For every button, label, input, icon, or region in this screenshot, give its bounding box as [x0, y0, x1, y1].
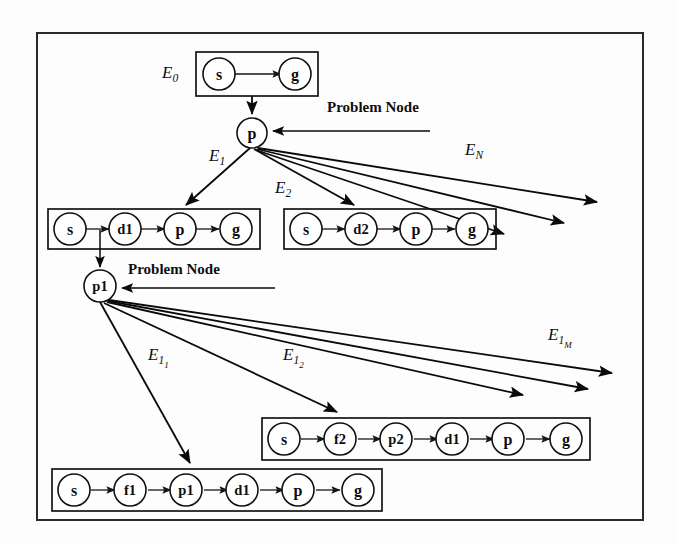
- figure-canvas: s g E0 p Problem Node E1 E2 EN: [0, 0, 678, 543]
- edge-p1-fan-3: [107, 302, 523, 395]
- edge-label-en: EN: [464, 140, 484, 161]
- plan-node-label: d1: [117, 221, 132, 237]
- plan-node-label: g: [354, 482, 362, 500]
- plan-node-label: g: [291, 66, 299, 84]
- plan-node-label: p: [412, 221, 421, 239]
- plan-node-label: d1: [444, 431, 459, 447]
- plan-node-label: s: [216, 66, 222, 83]
- annotation-problem-node-top: Problem Node: [327, 99, 419, 115]
- plan-node-label: p: [176, 221, 185, 239]
- plan-node-label: d2: [353, 221, 368, 237]
- plan-node-label: g: [232, 221, 240, 239]
- diagram-svg: s g E0 p Problem Node E1 E2 EN: [0, 0, 678, 543]
- plan-box-e0: s g: [196, 52, 318, 96]
- plan-node-label: s: [71, 482, 77, 499]
- edge-label-e1: E1: [208, 146, 225, 167]
- plan-node-label: p: [294, 482, 303, 500]
- plan-node-label: p1: [178, 482, 193, 498]
- edge-label-e12: E12: [282, 345, 304, 370]
- problem-node-label: p1: [92, 278, 107, 294]
- plan-box-e11: s f1 p1 d1 p g: [52, 469, 382, 511]
- plan-node-label: p2: [388, 431, 403, 447]
- plan-node-label: p: [504, 431, 513, 449]
- problem-node-label: p: [248, 125, 257, 143]
- plan-node-label: d1: [234, 482, 249, 498]
- plan-node-label: s: [281, 431, 287, 448]
- edge-p1-to-e11: [100, 302, 190, 463]
- plan-node-label: s: [67, 221, 73, 238]
- plan-box-e12: s f2 p2 d1 p g: [262, 418, 590, 460]
- edge-p1-fan-4: [108, 301, 588, 389]
- edge-p1-to-e12: [104, 303, 337, 412]
- plan-node-label: g: [562, 431, 570, 449]
- edge-p-fan-4: [257, 149, 564, 223]
- plan-box-e1: s d1 p g: [48, 209, 260, 249]
- edge-label-e2: E2: [274, 178, 291, 199]
- plan-node-label: f1: [124, 482, 136, 498]
- edge-p1-fan-m: [109, 300, 612, 373]
- edge-p-to-e2: [254, 149, 354, 205]
- annotation-problem-node-mid: Problem Node: [128, 261, 220, 277]
- plan-node-label: f2: [334, 431, 346, 447]
- edge-label-e11: E11: [147, 345, 169, 370]
- plan-box-e2: s d2 p g: [284, 209, 496, 249]
- plan-node-label: s: [303, 221, 309, 238]
- edge-label-e0: E0: [161, 63, 178, 84]
- edge-label-e1m: E1M: [547, 325, 572, 350]
- plan-node-label: g: [468, 221, 476, 239]
- edge-p-fan-n: [258, 148, 597, 202]
